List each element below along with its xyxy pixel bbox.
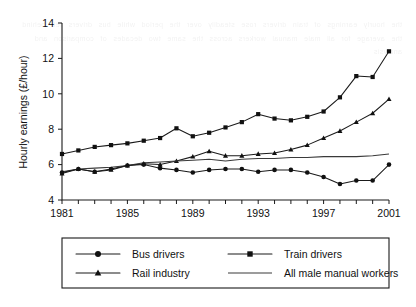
data-point-marker: [338, 95, 342, 99]
data-point-marker: [223, 167, 228, 172]
data-point-marker: [354, 178, 359, 183]
data-point-marker: [125, 141, 129, 145]
data-point-marker: [207, 131, 211, 135]
data-point-marker: [256, 112, 260, 116]
data-point-marker: [305, 115, 309, 119]
data-point-marker: [60, 152, 64, 156]
legend-label: Train drivers: [284, 248, 342, 260]
data-point-marker: [142, 139, 146, 143]
data-point-marker: [141, 162, 146, 167]
data-point-marker: [387, 49, 391, 53]
x-tick-label: 1993: [247, 207, 271, 219]
legend-item-bus-drivers[interactable]: Bus drivers: [76, 248, 185, 260]
y-tick-label: 14: [42, 17, 54, 29]
legend-label: Bus drivers: [132, 248, 185, 260]
data-point-marker: [109, 143, 113, 147]
y-axis-title: Hourly earnings (£/hour): [17, 55, 29, 168]
data-point-marker: [289, 118, 293, 122]
data-point-marker: [174, 168, 179, 173]
data-point-marker: [76, 167, 81, 172]
line-chart: Hourly earnings (£/hour) 468101214 19811…: [0, 0, 416, 307]
data-point-marker: [191, 134, 195, 138]
data-point-marker: [223, 125, 227, 129]
legend-item-all-male-manual-workers[interactable]: All male manual workers: [228, 267, 398, 279]
series-line: [62, 51, 389, 154]
data-point-marker: [387, 162, 392, 167]
data-point-marker: [191, 170, 196, 175]
data-point-marker: [207, 168, 212, 173]
legend-item-rail-industry[interactable]: Rail industry: [76, 267, 191, 279]
axis-lines: [62, 23, 389, 200]
data-point-marker: [93, 145, 97, 149]
data-point-marker: [338, 182, 343, 187]
data-point-marker: [92, 169, 97, 174]
data-point-marker: [272, 116, 276, 120]
x-tick-label: 1997: [312, 207, 336, 219]
series-line: [62, 99, 389, 173]
series-train-drivers: [60, 49, 391, 156]
x-tick-label: 1989: [181, 207, 205, 219]
data-point-marker: [272, 168, 277, 173]
y-tick-label: 12: [42, 52, 54, 64]
legend-border: [62, 238, 389, 288]
chart-axes: [62, 23, 389, 200]
chart-series-group: [59, 49, 391, 186]
series-rail-industry: [59, 96, 391, 175]
data-point-marker: [322, 109, 326, 113]
y-axis-ticks: 468101214: [42, 17, 62, 206]
data-point-marker: [321, 175, 326, 180]
data-point-marker: [337, 128, 342, 133]
y-tick-label: 10: [42, 88, 54, 100]
chart-legend: Bus driversTrain driversRail industryAll…: [62, 238, 398, 288]
data-point-marker: [174, 126, 178, 130]
data-point-marker: [289, 168, 294, 173]
data-point-marker: [76, 148, 80, 152]
series-bus-drivers: [60, 162, 392, 186]
data-point-marker: [125, 163, 130, 168]
legend-label: All male manual workers: [284, 267, 398, 279]
legend-label: Rail industry: [132, 267, 191, 279]
data-point-marker: [370, 178, 375, 183]
data-point-marker: [60, 170, 65, 175]
data-point-marker: [158, 166, 163, 171]
data-point-marker: [240, 120, 244, 124]
x-axis-ticks: 198119851989199319972001: [50, 200, 401, 219]
data-point-marker: [386, 96, 391, 101]
data-point-marker: [158, 136, 162, 140]
x-tick-label: 1985: [116, 207, 140, 219]
data-point-marker: [109, 167, 114, 172]
x-tick-label: 1981: [50, 207, 74, 219]
x-tick-label: 2001: [377, 207, 401, 219]
data-point-marker: [305, 170, 310, 175]
chart-figure: the hourly earnings of train drivers ros…: [0, 0, 416, 307]
legend-item-train-drivers[interactable]: Train drivers: [228, 248, 342, 260]
data-point-marker: [354, 119, 359, 124]
y-tick-label: 8: [48, 123, 54, 135]
data-point-marker: [95, 251, 101, 257]
y-tick-label: 4: [48, 194, 54, 206]
data-point-marker: [207, 149, 212, 154]
data-point-marker: [371, 75, 375, 79]
data-point-marker: [240, 167, 245, 172]
data-point-marker: [256, 169, 261, 174]
data-point-marker: [247, 251, 252, 256]
data-point-marker: [354, 74, 358, 78]
y-tick-label: 6: [48, 158, 54, 170]
